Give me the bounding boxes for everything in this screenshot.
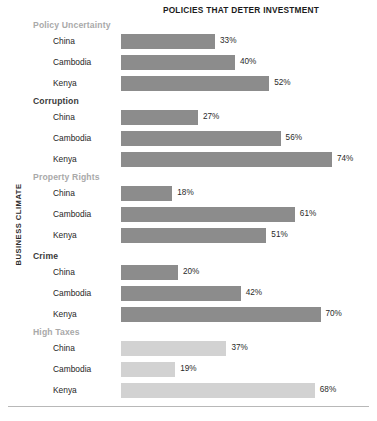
- bar: [121, 110, 198, 125]
- category-label: Kenya: [53, 385, 115, 395]
- bar: [121, 131, 281, 146]
- bar-row: Kenya70%: [0, 306, 377, 324]
- category-label: Kenya: [53, 78, 115, 88]
- category-label: China: [53, 188, 115, 198]
- bar-value-label: 42%: [246, 288, 262, 297]
- bar-value-label: 33%: [220, 36, 236, 45]
- bar-row: Kenya52%: [0, 75, 377, 93]
- bar-value-label: 27%: [203, 112, 219, 121]
- bar-value-label: 68%: [320, 385, 336, 394]
- group-header-label: Policy Uncertainty: [33, 20, 111, 30]
- bar: [121, 55, 235, 70]
- bottom-divider: [8, 406, 369, 407]
- chart-root: POLICIES THAT DETER INVESTMENT BUSINESS …: [0, 0, 377, 421]
- category-label: China: [53, 267, 115, 277]
- bar-row: Cambodia19%: [0, 361, 377, 379]
- bar-row: China37%: [0, 340, 377, 358]
- bar: [121, 383, 315, 398]
- bar: [121, 34, 215, 49]
- bar: [121, 286, 241, 301]
- bar-value-label: 56%: [286, 133, 302, 142]
- bar-row: Kenya74%: [0, 151, 377, 169]
- category-label: Cambodia: [53, 288, 115, 298]
- bar-row: Kenya68%: [0, 382, 377, 400]
- bar: [121, 362, 175, 377]
- bar-row: Kenya51%: [0, 227, 377, 245]
- bar-value-label: 52%: [274, 78, 290, 87]
- category-label: Kenya: [53, 230, 115, 240]
- bar-row: Cambodia40%: [0, 54, 377, 72]
- plot-area: Policy UncertaintyChina33%Cambodia40%Ken…: [0, 0, 377, 421]
- bar: [121, 228, 266, 243]
- bar-value-label: 61%: [300, 209, 316, 218]
- bar-row: Cambodia56%: [0, 130, 377, 148]
- bar-value-label: 37%: [231, 343, 247, 352]
- bar-row: Cambodia61%: [0, 206, 377, 224]
- bar-value-label: 18%: [177, 188, 193, 197]
- bar-row: China27%: [0, 109, 377, 127]
- bar-row: China20%: [0, 264, 377, 282]
- bar-value-label: 20%: [183, 267, 199, 276]
- category-label: Cambodia: [53, 133, 115, 143]
- bar-value-label: 19%: [180, 364, 196, 373]
- bar-value-label: 74%: [337, 154, 353, 163]
- category-label: Kenya: [53, 309, 115, 319]
- bar: [121, 341, 226, 356]
- category-label: China: [53, 343, 115, 353]
- category-label: Cambodia: [53, 364, 115, 374]
- bar-row: China18%: [0, 185, 377, 203]
- category-label: Cambodia: [53, 209, 115, 219]
- bar-value-label: 51%: [271, 230, 287, 239]
- category-label: Kenya: [53, 154, 115, 164]
- group-header-label: Corruption: [33, 96, 79, 106]
- bar-row: Cambodia42%: [0, 285, 377, 303]
- bar-value-label: 40%: [240, 57, 256, 66]
- bar: [121, 76, 269, 91]
- bar: [121, 152, 332, 167]
- category-label: Cambodia: [53, 57, 115, 67]
- group-header-label: Crime: [33, 251, 58, 261]
- bar: [121, 265, 178, 280]
- bar: [121, 186, 172, 201]
- bar: [121, 307, 321, 322]
- group-header-label: High Taxes: [33, 327, 80, 337]
- category-label: China: [53, 36, 115, 46]
- category-label: China: [53, 112, 115, 122]
- bar-row: China33%: [0, 33, 377, 51]
- group-header-label: Property Rights: [33, 172, 100, 182]
- bar-value-label: 70%: [326, 309, 342, 318]
- bar: [121, 207, 295, 222]
